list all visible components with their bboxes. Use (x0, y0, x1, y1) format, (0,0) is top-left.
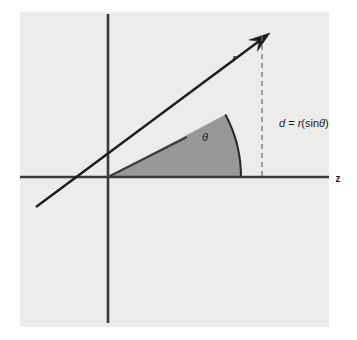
formula-part-open-sin: (sin (301, 117, 319, 129)
label-angle-theta: θ (202, 131, 208, 143)
diagram-container: r θ z d = r(sinθ) (0, 0, 357, 340)
formula-part-close-paren: ) (325, 117, 329, 129)
polar-geometry-diagram: r θ z d = r(sinθ) (0, 0, 357, 340)
label-distance-formula: d = r(sinθ) (279, 117, 329, 129)
label-axis-z: z (336, 173, 341, 184)
formula-part-equals: = (285, 117, 298, 129)
